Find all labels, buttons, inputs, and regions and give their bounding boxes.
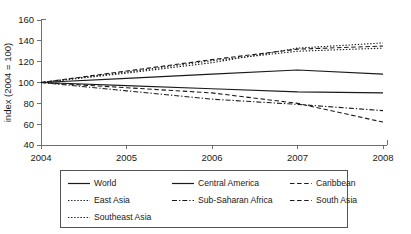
legend-line-swatch — [68, 180, 90, 187]
x-tick-label: 2007 — [287, 152, 308, 163]
legend-item-label: Caribbean — [316, 179, 356, 188]
x-tick-label: 2006 — [201, 152, 222, 163]
legend-item-southeast-asia[interactable]: Southeast Asia — [68, 213, 172, 222]
plot-area: 40608010012014016020042005200620072008in… — [0, 0, 411, 168]
legend-item-east-asia[interactable]: East Asia — [68, 196, 172, 205]
line-chart-svg: 40608010012014016020042005200620072008in… — [0, 0, 411, 168]
legend-item-label: East Asia — [94, 196, 130, 205]
legend-line-swatch — [68, 197, 90, 204]
legend-line-swatch — [172, 197, 194, 204]
y-tick-label: 80 — [23, 98, 34, 109]
legend-item-south-asia[interactable]: South Asia — [290, 196, 357, 205]
y-tick-label: 60 — [23, 119, 34, 130]
legend-item-label: South Asia — [316, 196, 357, 205]
y-tick-label: 120 — [18, 56, 34, 67]
legend-line-swatch — [172, 180, 194, 187]
chart-figure: 40608010012014016020042005200620072008in… — [0, 0, 411, 234]
legend-line-swatch — [290, 180, 312, 187]
x-tick-label: 2005 — [116, 152, 137, 163]
x-tick-label: 2008 — [372, 152, 393, 163]
y-tick-label: 140 — [18, 35, 34, 46]
series-line-southeast-asia — [41, 48, 383, 82]
series-line-east-asia — [41, 43, 383, 83]
legend-item-label: Sub-Saharan Africa — [198, 196, 273, 205]
y-axis-title: index (2004 = 100) — [2, 43, 13, 123]
legend-grid: WorldCentral AmericaCaribbeanEast AsiaSu… — [61, 175, 347, 226]
legend-item-caribbean[interactable]: Caribbean — [290, 179, 357, 188]
y-tick-label: 100 — [18, 77, 34, 88]
series-line-caribbean — [41, 46, 383, 82]
legend-item-world[interactable]: World — [68, 179, 172, 188]
chart-legend: WorldCentral AmericaCaribbeanEast AsiaSu… — [60, 170, 348, 228]
legend-item-central-america[interactable]: Central America — [172, 179, 290, 188]
legend-line-swatch — [290, 197, 312, 204]
y-tick-label: 160 — [18, 14, 34, 25]
series-line-sub-saharan-africa — [41, 83, 383, 111]
legend-item-label: Central America — [198, 179, 259, 188]
legend-item-label: Southeast Asia — [94, 213, 151, 222]
series-line-world — [41, 70, 383, 83]
legend-line-swatch — [68, 214, 90, 221]
x-tick-label: 2004 — [30, 152, 51, 163]
legend-item-sub-saharan-africa[interactable]: Sub-Saharan Africa — [172, 196, 290, 205]
legend-item-label: World — [94, 179, 116, 188]
y-tick-label: 40 — [23, 139, 34, 150]
